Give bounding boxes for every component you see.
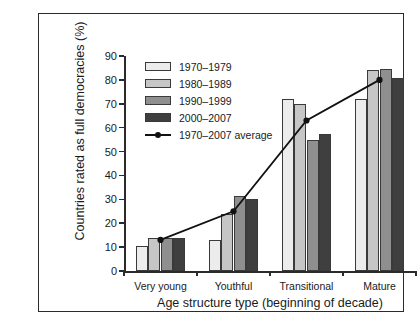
bar [380,69,392,271]
y-axis-tick-label: 40 [105,170,117,181]
y-axis-tick [119,127,124,129]
y-axis-tick-label: 60 [105,122,117,133]
y-axis-tick [119,246,124,248]
x-axis-category-label: Youthful [215,280,253,292]
y-axis-tick [119,79,124,81]
x-axis-category-label: Transitional [280,280,334,292]
legend-line-marker-icon [145,130,171,139]
bar [246,199,258,271]
bar [148,238,160,271]
x-axis-category-label: Mature [363,280,396,292]
legend-item: 2000–2007 [145,109,272,126]
bar [367,70,379,271]
y-axis-tick-label: 80 [105,74,117,85]
x-axis-tick [269,271,271,276]
y-axis-tick [119,151,124,153]
y-axis-tick-label: 0 [111,266,117,277]
bar [173,238,185,271]
x-axis-tick [342,271,344,276]
legend-swatch [145,96,171,105]
legend-swatch [145,113,171,122]
bar [161,238,173,271]
y-axis-tick [119,222,124,224]
bar [209,240,221,271]
legend-item-label: 1990–1999 [179,95,232,107]
legend-item-label: 1970–2007 average [179,129,272,141]
legend-swatch [145,79,171,88]
x-axis-title: Age structure type (beginning of decade) [124,296,416,310]
legend-item-label: 1980–1989 [179,78,232,90]
legend-item-label: 2000–2007 [179,112,232,124]
legend-item: 1990–1999 [145,92,272,109]
y-axis-tick [119,103,124,105]
legend-item: 1980–1989 [145,75,272,92]
y-axis-tick [119,55,124,57]
bar [319,134,331,271]
y-axis-tick-label: 50 [105,146,117,157]
chart-frame: 0102030405060708090 Very youngYouthfulTr… [38,13,404,312]
bar [307,140,319,271]
legend-item: 1970–2007 average [145,126,272,143]
bar [355,99,367,271]
bar [234,196,246,271]
bar [294,104,306,271]
bar [282,99,294,271]
y-axis-tick-label: 90 [105,51,117,62]
y-axis-tick-label: 70 [105,98,117,109]
x-axis-tick [123,271,125,276]
chart-legend: 1970–19791980–19891990–19992000–20071970… [145,58,272,143]
y-axis-tick [119,199,124,201]
legend-item-label: 1970–1979 [179,61,232,73]
y-axis-tick [119,175,124,177]
y-axis-line [124,56,126,271]
y-axis-tick-label: 10 [105,242,117,253]
legend-swatch [145,62,171,71]
y-axis-tick-label: 20 [105,218,117,229]
y-axis-title: Countries rated as full democracies (%) [73,11,87,251]
bar [392,78,404,272]
bar [136,246,148,271]
x-axis-tick [196,271,198,276]
x-axis-category-label: Very young [134,280,187,292]
bar [221,214,233,271]
legend-item: 1970–1979 [145,58,272,75]
y-axis-tick-label: 30 [105,194,117,205]
